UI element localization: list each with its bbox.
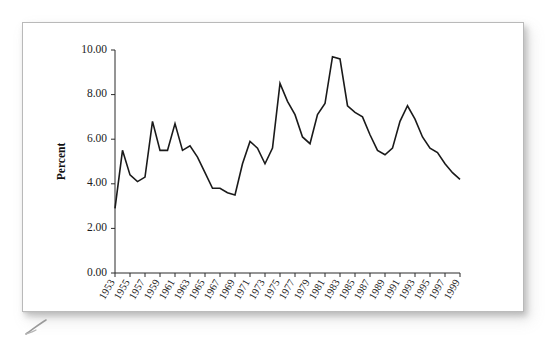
y-axis: 0.002.004.006.008.0010.00 [81, 43, 115, 278]
x-tick-label: 1999 [442, 278, 462, 302]
y-tick-label: 10.00 [81, 43, 107, 55]
pen-curl-mark [24, 318, 50, 336]
y-tick-label: 2.00 [87, 221, 107, 233]
x-axis: 1953195519571959196119631965196719691971… [97, 273, 462, 301]
screenshot-root: 0.002.004.006.008.0010.00 19531955195719… [0, 0, 549, 349]
y-tick-label: 4.00 [87, 176, 107, 188]
y-tick-label: 6.00 [87, 132, 107, 144]
scanned-page-card: 0.002.004.006.008.0010.00 19531955195719… [22, 22, 524, 312]
chart-svg: 0.002.004.006.008.0010.00 19531955195719… [23, 23, 525, 313]
series-unemployment-rate [115, 57, 460, 209]
y-axis-title: Percent [55, 143, 67, 181]
data-series [115, 57, 460, 209]
y-tick-label: 8.00 [87, 87, 107, 99]
y-axis-title-text: Percent [55, 143, 67, 181]
line-chart: 0.002.004.006.008.0010.00 19531955195719… [23, 23, 525, 313]
y-tick-label: 0.00 [87, 266, 107, 278]
